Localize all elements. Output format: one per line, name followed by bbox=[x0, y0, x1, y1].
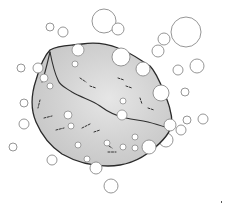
bubble-icon bbox=[9, 143, 17, 151]
bubble-icon bbox=[120, 144, 126, 150]
bubble-icon bbox=[33, 63, 43, 73]
bubble-icon bbox=[58, 27, 68, 37]
bubble-icon bbox=[136, 62, 150, 76]
bubble-icon bbox=[64, 111, 72, 119]
bubble-icon bbox=[90, 162, 102, 174]
bubble-icon bbox=[181, 88, 189, 96]
bubble-icon bbox=[117, 110, 127, 120]
bubble-icon bbox=[68, 123, 74, 129]
bubble-icon bbox=[17, 64, 25, 72]
bubble-icon bbox=[84, 156, 90, 162]
bubble-icon bbox=[47, 83, 53, 89]
bubble-icon bbox=[104, 179, 118, 193]
bubble-icon bbox=[19, 119, 29, 129]
bubble-icon bbox=[132, 134, 138, 140]
bubble-icon bbox=[40, 74, 48, 82]
bubble-icon bbox=[132, 145, 138, 151]
bubble-icon bbox=[158, 33, 170, 45]
bubble-icon bbox=[164, 119, 176, 131]
bubble-icon bbox=[142, 140, 156, 154]
bubble-icon bbox=[176, 125, 186, 135]
bubble-icon bbox=[198, 114, 208, 124]
bubble-icon bbox=[47, 155, 57, 165]
rock-illustration bbox=[0, 0, 226, 209]
bubble-icon bbox=[173, 65, 183, 75]
bubble-icon bbox=[72, 44, 84, 56]
illustration-canvas bbox=[0, 0, 226, 209]
bubble-icon bbox=[104, 140, 110, 146]
bubble-icon bbox=[171, 17, 201, 47]
bubble-icon bbox=[72, 61, 78, 67]
bubble-icon bbox=[120, 98, 126, 104]
bubble-icon bbox=[112, 48, 130, 66]
bubble-icon bbox=[20, 99, 28, 107]
bubble-icon bbox=[153, 85, 169, 101]
dot-mark bbox=[221, 201, 222, 203]
bubble-icon bbox=[75, 142, 81, 148]
bubble-icon bbox=[112, 23, 124, 35]
stray-marks bbox=[221, 201, 222, 203]
bubble-icon bbox=[183, 116, 191, 124]
bubble-icon bbox=[190, 59, 204, 73]
bubble-icon bbox=[152, 45, 164, 57]
bubble-icon bbox=[46, 23, 54, 31]
